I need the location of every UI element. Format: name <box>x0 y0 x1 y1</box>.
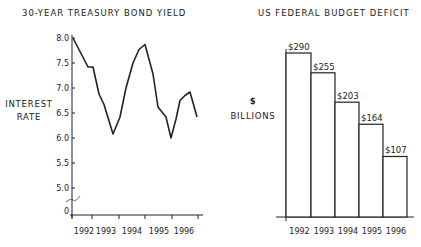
y-tick-label: 5.0 <box>56 184 69 193</box>
x-tick-label: 1993 <box>96 227 116 236</box>
bar-value-label: $255 <box>313 62 335 72</box>
yield-line <box>73 38 197 138</box>
y-axis-label-line1: INTEREST <box>5 99 53 109</box>
x-ticks: 19921993199419951996 <box>72 215 198 236</box>
bar-1992 <box>286 53 311 217</box>
bar-value-label: $290 <box>288 42 310 52</box>
y-tick-label: 6.0 <box>56 134 69 143</box>
axis-break-mark <box>66 196 80 202</box>
x-tick-label: 1996 <box>174 227 194 236</box>
bars: $2901992$2551993$2031994$1641995$1071996 <box>286 42 407 236</box>
y-tick-label: 6.5 <box>56 109 69 118</box>
bar-value-label: $203 <box>337 91 359 101</box>
x-tick-label: 1995 <box>362 227 382 236</box>
bar-value-label: $107 <box>385 145 407 155</box>
y-tick-label: 7.0 <box>56 84 69 93</box>
x-tick-label: 1992 <box>74 227 94 236</box>
y-tick-label: 8.0 <box>56 34 69 43</box>
x-tick-label: 1995 <box>149 227 169 236</box>
chart-title: US FEDERAL BUDGET DEFICIT <box>258 8 410 18</box>
y-tick-label: 7.5 <box>56 59 69 68</box>
y-axis-label-line2: BILLIONS <box>230 111 275 121</box>
x-tick-label: 1994 <box>338 227 358 236</box>
x-tick-label: 1994 <box>122 227 142 236</box>
charts-canvas: 30-YEAR TREASURY BOND YIELD INTEREST RAT… <box>0 0 421 247</box>
y-tick-label: 0 <box>64 207 69 216</box>
bar-value-label: $164 <box>361 113 383 123</box>
budget-deficit-chart: US FEDERAL BUDGET DEFICIT $ BILLIONS $29… <box>230 8 414 236</box>
bar-1995 <box>359 124 383 217</box>
chart-title: 30-YEAR TREASURY BOND YIELD <box>22 8 186 18</box>
x-tick-label: 1992 <box>289 227 309 236</box>
y-axis-label-line2: RATE <box>17 112 41 122</box>
bar-1996 <box>383 156 407 217</box>
y-axis-label-line1: $ <box>250 96 257 106</box>
x-tick-label: 1993 <box>314 227 334 236</box>
bar-1994 <box>335 102 359 217</box>
x-tick-label: 1996 <box>386 227 406 236</box>
y-tick-label: 5.5 <box>56 159 69 168</box>
bar-1993 <box>311 73 335 217</box>
treasury-yield-chart: 30-YEAR TREASURY BOND YIELD INTEREST RAT… <box>5 8 203 236</box>
